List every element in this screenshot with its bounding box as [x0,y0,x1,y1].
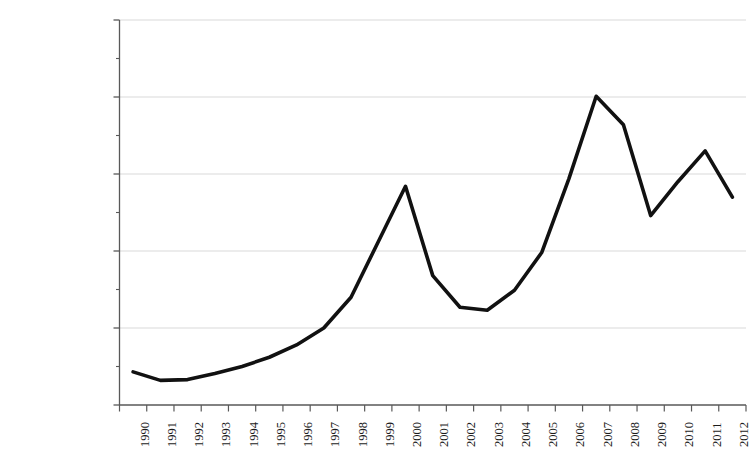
x-axis-tick-label: 1997 [329,422,342,447]
x-axis-tick-label: 2008 [629,422,642,447]
x-axis-tick-label: 1991 [166,422,179,447]
x-axis-tick-label: 2011 [711,422,724,447]
x-axis-tick-label: 2000 [411,422,424,447]
x-axis-tick-label: 2006 [574,422,587,447]
x-axis-tick-label: 2003 [493,422,506,447]
x-axis-tick-label: 2004 [520,422,533,447]
x-axis-tick-label: 1994 [248,422,261,447]
x-axis-label-group: 1990199119921993199419951996199719981999… [0,0,749,452]
x-axis-tick-label: 2012 [738,422,749,447]
x-axis-tick-label: 1995 [275,422,288,447]
x-axis-tick-label: 1998 [357,422,370,447]
x-axis-tick-label: 1992 [193,422,206,447]
x-axis-tick-label: 2005 [547,422,560,447]
x-axis-tick-label: 2010 [683,422,696,447]
x-axis-tick-label: 2002 [465,422,478,447]
line-chart: $-$5,00,000.00$10,00,000.00$15,00,000.00… [0,0,749,452]
x-axis-tick-label: 1996 [302,422,315,447]
x-axis-tick-label: 1990 [139,422,152,447]
x-axis-tick-label: 1993 [220,422,233,447]
x-axis-tick-label: 1999 [384,422,397,447]
x-axis-tick-label: 2007 [602,422,615,447]
x-axis-tick-label: 2009 [656,422,669,447]
x-axis-tick-label: 2001 [438,422,451,447]
